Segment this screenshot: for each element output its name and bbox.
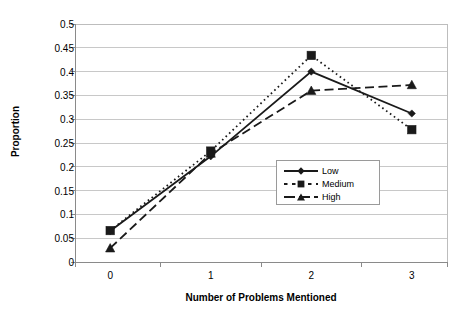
legend-item-medium: Medium bbox=[282, 177, 374, 190]
chart-container: 00.050.10.150.20.250.30.350.40.450.5 012… bbox=[0, 0, 471, 316]
legend-label-low: Low bbox=[320, 166, 339, 176]
x-axis-title: Number of Problems Mentioned bbox=[75, 292, 447, 303]
y-tick-label: 0.35 bbox=[40, 90, 74, 101]
legend-item-low: Low bbox=[282, 164, 374, 177]
legend-swatch-high bbox=[282, 191, 320, 203]
y-tick-label: 0.3 bbox=[40, 114, 74, 125]
y-tick-label: 0.2 bbox=[40, 161, 74, 172]
x-tick-label: 3 bbox=[409, 270, 415, 281]
x-tick-label: 2 bbox=[308, 270, 314, 281]
y-tick-label: 0 bbox=[40, 257, 74, 268]
data-point-diamond bbox=[408, 110, 415, 117]
data-point-square bbox=[408, 125, 416, 133]
y-tick-label: 0.25 bbox=[40, 138, 74, 149]
y-axis-title: Proportion bbox=[6, 0, 26, 262]
legend-item-high: High bbox=[282, 190, 374, 203]
legend-label-high: High bbox=[320, 192, 341, 202]
y-axis-tick-labels: 00.050.10.150.20.250.30.350.40.450.5 bbox=[30, 0, 74, 316]
legend-label-medium: Medium bbox=[320, 179, 354, 189]
x-tick-label: 0 bbox=[107, 270, 113, 281]
y-tick-label: 0.5 bbox=[40, 19, 74, 30]
y-tick-label: 0.05 bbox=[40, 233, 74, 244]
data-point-square bbox=[307, 51, 315, 59]
legend-swatch-low bbox=[282, 165, 320, 177]
y-tick-label: 0.45 bbox=[40, 42, 74, 53]
y-axis-title-text: Proportion bbox=[11, 105, 22, 156]
chart-legend: Low Medium High bbox=[276, 160, 380, 205]
y-tick-label: 0.1 bbox=[40, 209, 74, 220]
x-tick-label: 1 bbox=[208, 270, 214, 281]
y-tick-label: 0.4 bbox=[40, 66, 74, 77]
data-point-square bbox=[106, 226, 114, 234]
y-tick-label: 0.15 bbox=[40, 185, 74, 196]
legend-swatch-medium bbox=[282, 178, 320, 190]
